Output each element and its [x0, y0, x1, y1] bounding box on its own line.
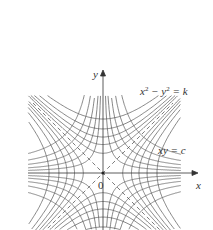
hyperbola-curves — [28, 95, 181, 230]
label-x2-minus-y2-eq-k: x2 − y2 = k — [140, 86, 188, 97]
y-axis-label: y — [93, 69, 98, 80]
x-axis-arrow-icon — [192, 171, 198, 176]
origin-dot — [101, 171, 104, 174]
x-axis-label: x — [196, 180, 201, 191]
label-minus: − — [148, 85, 161, 97]
label-xy-eq-c: xy = c — [158, 145, 186, 156]
label-eq-k: = k — [170, 85, 188, 97]
y-axis-arrow-icon — [101, 70, 106, 76]
origin-label: 0 — [98, 180, 104, 191]
orthogonal-hyperbolas-diagram — [0, 0, 213, 230]
